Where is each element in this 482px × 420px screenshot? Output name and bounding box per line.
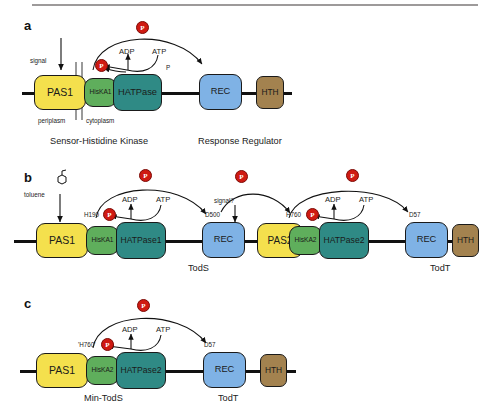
phosphate-group-icon: P [306,208,319,221]
his760-label: H760 [286,211,301,218]
toluene-molecule-icon [50,168,72,190]
domain-box-hth[interactable]: HTH [256,76,284,109]
his760-label: 'H760' [78,341,95,348]
domain-label: HTH [261,88,278,96]
atp-label: ATP [359,195,373,204]
domain-box-hth[interactable]: HTH [260,354,287,387]
domain-box-hatpase1[interactable]: HATPase1 [116,222,166,259]
domain-label: HATPase [118,88,157,97]
domain-box-hatpase[interactable]: HATPase [113,74,162,111]
periplasm-label: periplasm [38,117,65,124]
panel-a-caption-kinase: Sensor-Histidine Kinase [50,136,148,146]
atp-label: ATP [156,195,170,204]
asp500-label: D500 [205,211,220,218]
domain-box-rec[interactable]: REC [203,352,246,388]
atp-label: ATP [156,325,170,334]
domain-label: HTH [457,236,474,244]
panel-c-caption-mintods: Min-TodS [84,393,123,403]
domain-box-rec1[interactable]: REC [202,222,245,258]
asp57-label: D57 [409,211,421,218]
domain-label: PAS1 [49,365,75,376]
toluene-label: toluene [24,191,45,198]
panel-a-label: a [24,18,31,33]
panel-c-label: c [24,296,31,311]
adp-label: ADP [122,325,138,334]
domain-box-rec[interactable]: REC [199,74,242,110]
domain-box-rec2[interactable]: REC [405,222,448,258]
domain-label: HisKA2 [92,367,114,374]
domain-label: REC [211,87,231,96]
backbone-segment [286,370,296,373]
backbone-segment [162,370,207,373]
panel-a-caption-regulator: Response Regulator [198,136,282,146]
domain-box-hiska2[interactable]: HisKA2 [289,226,322,255]
pi-label: P [166,64,170,71]
top-divider-line [32,4,478,6]
backbone-segment [158,92,203,95]
panel-b-caption-tods: TodS [188,263,209,273]
phosphate-group-icon: P [139,169,152,182]
panel-b-caption-todt: TodT [430,263,450,273]
domain-box-pas1[interactable]: PAS1 [34,75,86,110]
phosphate-group-icon: P [136,21,149,34]
phosphate-group-icon: P [137,299,150,312]
domain-label: HATPase2 [324,236,365,245]
phosphate-group-icon: P [235,170,248,183]
domain-label: HisKA1 [90,89,112,96]
domain-box-hatpase2[interactable]: HATPase2 [116,352,166,389]
domain-label: HATPase1 [121,236,162,245]
domain-label: REC [417,235,437,244]
domain-label: HTH [265,366,282,374]
his190-label: H190 [84,211,99,218]
domain-label: PAS1 [47,87,73,98]
backbone-segment [162,240,206,243]
domain-label: PAS1 [49,235,75,246]
backbone-segment [14,240,38,243]
panel-b-label: b [24,170,32,185]
cytoplasm-label: cytoplasm [86,117,114,124]
atp-label: ATP [152,47,166,56]
panel-c-caption-todt: TodT [218,393,238,403]
domain-box-hatpase2[interactable]: HATPase2 [319,222,369,259]
phosphate-group-icon: P [103,208,116,221]
domain-box-pas1[interactable]: PAS1 [36,223,88,258]
asp57-label: D57 [204,341,216,348]
backbone-segment [365,240,409,243]
domain-box-hiska1[interactable]: HisKA1 [86,226,119,255]
domain-box-hiska2[interactable]: HisKA2 [86,356,119,385]
phosphate-group-icon: P [101,338,114,351]
adp-label: ADP [325,195,341,204]
domain-label: HisKA1 [92,237,114,244]
adp-label: ADP [122,195,138,204]
signal-question-label: signal? [214,197,234,204]
adp-label: ADP [119,47,135,56]
domain-box-pas1[interactable]: PAS1 [36,353,88,388]
domain-label: HATPase2 [121,366,162,375]
domain-box-hth[interactable]: HTH [452,224,479,257]
domain-label: REC [214,235,234,244]
domain-label: REC [215,365,235,374]
domain-label: HisKA2 [295,237,317,244]
signal-label: signal [30,57,46,64]
phosphate-group-icon: P [95,59,108,72]
phosphate-group-icon: P [346,169,359,182]
